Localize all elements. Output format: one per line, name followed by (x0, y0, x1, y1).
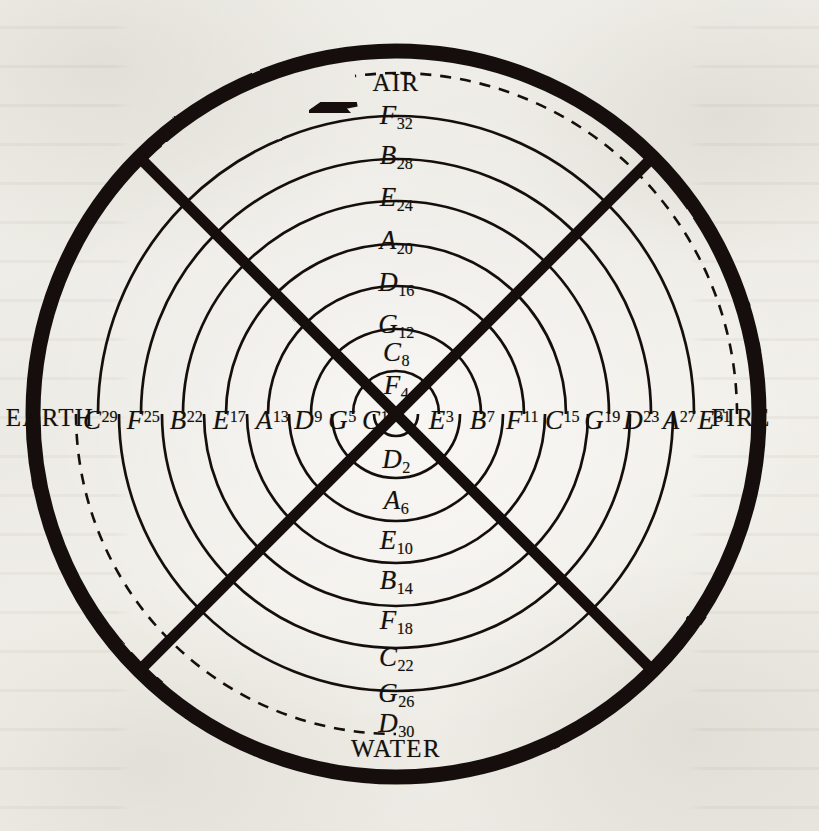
note-index: 22 (397, 656, 413, 674)
note-letter: G (584, 405, 604, 435)
note-index: 28 (397, 154, 413, 172)
note-index: 23 (643, 408, 659, 426)
element-label-water: WATER (351, 736, 441, 761)
note-label-bottom-14: B14 (380, 567, 413, 594)
note-label-bottom-6: A6 (384, 487, 409, 514)
note-index: 26 (398, 692, 414, 710)
note-label-right-31: E31 (698, 407, 731, 434)
note-letter: E (698, 405, 715, 435)
note-label-left-17: E17 (213, 407, 246, 434)
note-label-left-5: G5 (328, 407, 356, 434)
note-index: 31 (715, 408, 731, 426)
note-index: 16 (398, 281, 414, 299)
note-letter: G (378, 678, 398, 708)
note-index: 22 (187, 408, 203, 426)
note-label-right-7: B7 (470, 407, 495, 434)
note-label-top-8: C8 (383, 339, 409, 366)
note-index: 19 (604, 408, 620, 426)
note-letter: G (378, 309, 398, 339)
note-label-right-27: A27 (663, 407, 696, 434)
note-letter: D (378, 708, 398, 738)
note-index: 1 (380, 408, 388, 426)
note-letter: C (379, 642, 397, 672)
note-letter: A (380, 225, 397, 255)
note-letter: E (429, 405, 446, 435)
note-label-top-24: E24 (380, 184, 413, 211)
note-index: 15 (563, 408, 579, 426)
note-letter: G (328, 405, 348, 435)
note-letter: C (362, 405, 380, 435)
note-index: 11 (523, 408, 539, 426)
note-letter: A (384, 485, 401, 515)
note-label-bottom-30: D30 (378, 710, 414, 737)
note-index: 10 (397, 539, 413, 557)
note-index: 5 (348, 408, 356, 426)
note-letter: F (127, 405, 144, 435)
note-index: 24 (397, 196, 413, 214)
note-index: 13 (273, 408, 289, 426)
note-label-right-19: G19 (584, 407, 620, 434)
note-label-left-13: A13 (256, 407, 289, 434)
note-index: 6 (401, 499, 409, 517)
note-index: 29 (101, 408, 117, 426)
note-label-left-1: C1 (362, 407, 388, 434)
note-label-top-12: G12 (378, 311, 414, 338)
note-letter: B (170, 405, 187, 435)
note-index: 2 (402, 458, 410, 476)
note-letter: B (470, 405, 487, 435)
note-label-bottom-10: E10 (380, 527, 413, 554)
note-letter: D (382, 444, 402, 474)
note-index: 9 (314, 408, 322, 426)
note-letter: E (213, 405, 230, 435)
note-index: 7 (487, 408, 495, 426)
note-letter: F (380, 605, 397, 635)
note-index: 8 (401, 351, 409, 369)
note-label-top-28: B28 (380, 142, 413, 169)
note-index: 25 (144, 408, 160, 426)
note-letter: C (383, 337, 401, 367)
note-label-left-9: D9 (294, 407, 322, 434)
note-index: 3 (446, 408, 454, 426)
note-label-top-20: A20 (380, 227, 413, 254)
note-index: 17 (230, 408, 246, 426)
rotation-arrow (312, 103, 357, 112)
note-label-top-4: F4 (384, 372, 409, 399)
note-label-left-29: C29 (83, 407, 117, 434)
note-label-bottom-22: C22 (379, 644, 413, 671)
diagram-stage: AIR WATER EARTH FIRE F32B28E24A20D16G12C… (0, 0, 819, 831)
element-label-earth: EARTH (6, 405, 94, 430)
note-letter: E (380, 525, 397, 555)
note-label-right-23: D23 (623, 407, 659, 434)
note-label-right-15: C15 (545, 407, 579, 434)
note-letter: A (663, 405, 680, 435)
note-index: 27 (680, 408, 696, 426)
note-label-bottom-26: G26 (378, 680, 414, 707)
note-letter: B (380, 565, 397, 595)
note-letter: C (545, 405, 563, 435)
note-letter: E (380, 182, 397, 212)
note-label-right-3: E3 (429, 407, 454, 434)
note-letter: F (380, 100, 397, 130)
element-label-air: AIR (373, 70, 420, 95)
note-index: 30 (398, 722, 414, 740)
note-label-top-16: D16 (378, 269, 414, 296)
note-letter: C (83, 405, 101, 435)
note-label-left-22: B22 (170, 407, 203, 434)
note-index: 14 (397, 579, 413, 597)
note-letter: D (378, 267, 398, 297)
note-letter: B (380, 140, 397, 170)
note-letter: F (384, 370, 401, 400)
note-index: 20 (397, 239, 413, 257)
note-letter: F (506, 405, 523, 435)
note-index: 4 (401, 384, 409, 402)
note-label-left-25: F25 (127, 407, 160, 434)
note-index: 18 (397, 619, 413, 637)
note-letter: D (294, 405, 314, 435)
note-index: 32 (397, 114, 413, 132)
note-letter: D (623, 405, 643, 435)
note-label-top-32: F32 (380, 102, 413, 129)
note-label-bottom-2: D2 (382, 446, 410, 473)
note-label-bottom-18: F18 (380, 607, 413, 634)
note-letter: A (256, 405, 273, 435)
note-label-right-11: F11 (506, 407, 538, 434)
